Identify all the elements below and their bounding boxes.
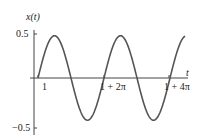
x-tick-label-2: 1 + 2π [100, 81, 126, 92]
x-tick-label-1: 1 [42, 81, 47, 92]
y-tick-label-top: 0.5 [16, 28, 29, 39]
y-axis-label: x(t) [25, 11, 41, 23]
y-tick-label-bottom: −0.5 [12, 122, 30, 133]
x-tick-label-3: 1 + 4π [164, 81, 190, 92]
chart: x(t) 0.5 −0.5 t 1 1 + 2π 1 + 4π [0, 0, 199, 135]
x-axis-label: t [186, 67, 189, 78]
